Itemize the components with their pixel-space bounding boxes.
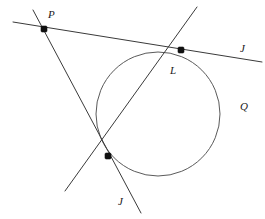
label-point-p: P <box>48 9 55 20</box>
label-circle-q: Q <box>240 101 248 112</box>
label-line-j-bottom: J <box>118 196 123 207</box>
label-line-j-right: J <box>240 43 245 54</box>
circle-q <box>96 52 220 176</box>
point-l-marker <box>178 47 184 53</box>
geometry-figure: P L J J Q <box>0 0 265 219</box>
point-lower-tangent-marker <box>105 153 111 159</box>
label-point-l: L <box>170 65 176 76</box>
point-p-marker <box>41 26 47 32</box>
figure-canvas <box>0 0 265 219</box>
line-secant-chord <box>65 7 197 191</box>
